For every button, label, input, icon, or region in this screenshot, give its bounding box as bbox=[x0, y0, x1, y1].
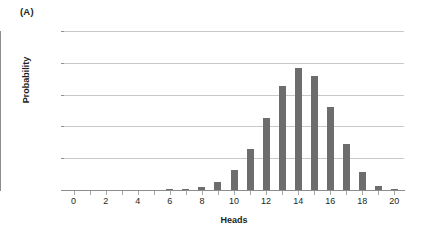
bar bbox=[214, 182, 221, 190]
x-tick-mark bbox=[90, 191, 91, 195]
x-tick-mark bbox=[314, 191, 315, 195]
x-tick-mark bbox=[378, 191, 379, 195]
bar bbox=[311, 76, 318, 190]
x-tick-label: 6 bbox=[158, 196, 182, 206]
x-tick-label: 14 bbox=[286, 196, 310, 206]
x-tick-mark bbox=[170, 191, 171, 195]
x-tick-mark bbox=[298, 191, 299, 195]
gridline bbox=[64, 31, 404, 32]
bar bbox=[327, 107, 334, 190]
y-axis-title: Probability bbox=[21, 40, 31, 120]
x-tick-label: 8 bbox=[190, 196, 214, 206]
bar bbox=[359, 172, 366, 190]
x-tick-mark bbox=[218, 191, 219, 195]
gridline bbox=[64, 95, 404, 96]
gridline bbox=[64, 126, 404, 127]
bar bbox=[295, 68, 302, 190]
x-tick-label: 12 bbox=[254, 196, 278, 206]
x-tick-mark bbox=[202, 191, 203, 195]
bar bbox=[263, 118, 270, 191]
x-axis-title: Heads bbox=[64, 215, 404, 225]
x-tick-label: 20 bbox=[382, 196, 406, 206]
x-tick-mark bbox=[74, 191, 75, 195]
x-tick-mark bbox=[154, 191, 155, 195]
x-tick-mark bbox=[330, 191, 331, 195]
x-tick-mark bbox=[106, 191, 107, 195]
gridline bbox=[64, 63, 404, 64]
plot-area bbox=[64, 31, 404, 190]
x-tick-mark bbox=[186, 191, 187, 195]
panel-label: (A) bbox=[20, 6, 34, 17]
x-tick-label: 0 bbox=[62, 196, 86, 206]
x-tick-label: 4 bbox=[126, 196, 150, 206]
x-tick-mark bbox=[282, 191, 283, 195]
figure-panel-a: (A) Probability Heads 00.050.10.150.20.2… bbox=[0, 0, 421, 240]
bar bbox=[231, 170, 238, 190]
y-tick-mark bbox=[61, 190, 64, 191]
bar bbox=[182, 189, 189, 190]
x-tick-label: 18 bbox=[350, 196, 374, 206]
x-tick-label: 2 bbox=[94, 196, 118, 206]
bar bbox=[391, 189, 398, 190]
bar bbox=[198, 187, 205, 190]
x-tick-mark bbox=[138, 191, 139, 195]
bar bbox=[343, 144, 350, 190]
y-axis-line bbox=[0, 31, 1, 191]
x-tick-mark bbox=[266, 191, 267, 195]
x-tick-mark bbox=[362, 191, 363, 195]
x-tick-mark bbox=[122, 191, 123, 195]
bar bbox=[375, 186, 382, 190]
x-tick-mark bbox=[250, 191, 251, 195]
gridline bbox=[64, 158, 404, 159]
x-tick-mark bbox=[346, 191, 347, 195]
x-tick-label: 10 bbox=[222, 196, 246, 206]
x-tick-mark bbox=[234, 191, 235, 195]
bar bbox=[279, 86, 286, 190]
bar bbox=[166, 189, 173, 190]
bar bbox=[247, 149, 254, 190]
x-tick-mark bbox=[394, 191, 395, 195]
x-tick-label: 16 bbox=[318, 196, 342, 206]
